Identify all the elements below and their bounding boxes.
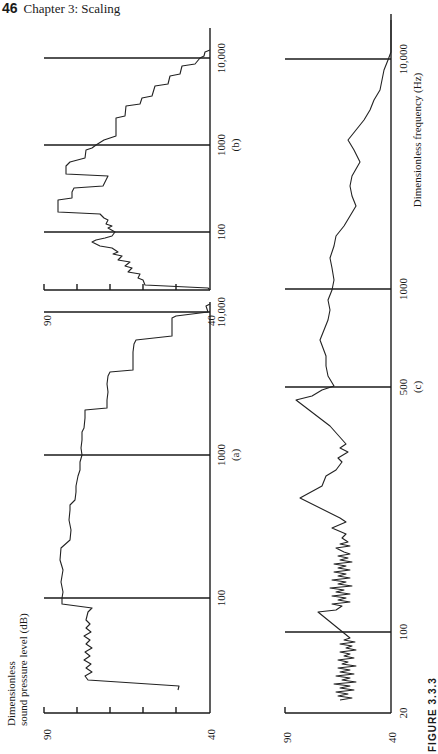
chart-c-xlabel: Dimensionless frequency (Hz) xyxy=(411,72,424,207)
chart-c-ytick-40: 40 xyxy=(386,732,398,744)
chart-b-xtick-1000: 1000 xyxy=(215,134,227,157)
chart-c-xtick-100: 100 xyxy=(397,623,409,640)
chart-b-caption: (b) xyxy=(229,138,242,151)
chart-c-xtick-10000: 10,000 xyxy=(397,43,409,74)
chart-c-xtick-1000: 1000 xyxy=(397,278,409,301)
chart-c-xtick-500: 500 xyxy=(397,378,409,395)
figure-3-3-rotated: 90 40 Dimensionless sound pressure level… xyxy=(0,0,438,754)
chart-a-ylabel-line2: sound pressure level (dB) xyxy=(17,613,30,726)
chart-a-ytick-90: 90 xyxy=(41,729,53,741)
chart-b-ytick-40: 40 xyxy=(205,315,217,327)
chart-c-xtick-20: 20 xyxy=(397,707,409,719)
chart-c-ytick-90: 90 xyxy=(281,732,293,744)
chart-c: 90 40 20 100 500 1000 10,000 (c) Dimensi… xyxy=(281,14,424,743)
chart-c-caption: (c) xyxy=(411,381,424,394)
chart-c-trace xyxy=(296,20,391,700)
chart-a-xtick-1000: 1000 xyxy=(215,444,227,467)
chart-b-trace xyxy=(58,50,210,290)
chart-b-xtick-100: 100 xyxy=(215,223,227,240)
chart-a-xtick-100: 100 xyxy=(215,589,227,606)
chart-a-caption: (a) xyxy=(229,449,242,462)
chart-a: 90 40 Dimensionless sound pressure level… xyxy=(5,296,242,740)
chart-b-xtick-10000: 10,000 xyxy=(215,42,227,73)
figure-label: FIGURE 3.3.3 xyxy=(427,677,438,752)
chart-a-trace xyxy=(60,304,210,690)
chart-b: 90 40 100 1000 10,000 (b) xyxy=(41,28,242,326)
chart-a-ylabel-line1: Dimensionless xyxy=(5,661,17,726)
chart-a-ytick-40: 40 xyxy=(205,729,217,741)
chart-b-ytick-90: 90 xyxy=(41,315,53,327)
